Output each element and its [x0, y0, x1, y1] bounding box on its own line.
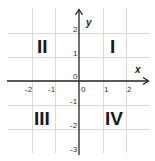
y-axis-label: y [85, 17, 92, 28]
y-tick-0: 0 [73, 72, 78, 81]
quadrant-label-1: I [110, 36, 115, 57]
x-tick-2: 2 [127, 85, 132, 94]
coordinate-plane: x y -2 -1 0 1 2 2 1 0 -1 -2 -3 I II III … [0, 0, 155, 161]
quadrant-label-4: IV [105, 108, 123, 129]
x-tick-0: 0 [81, 85, 86, 94]
x-tick-neg2: -2 [25, 85, 33, 94]
x-tick-neg1: -1 [48, 85, 56, 94]
y-tick-1: 1 [73, 49, 78, 58]
x-axis-label: x [134, 64, 141, 75]
x-tick-1: 1 [104, 85, 109, 94]
y-tick-neg1: -1 [70, 97, 78, 106]
y-tick-neg2: -2 [70, 121, 78, 130]
quadrant-label-3: III [34, 108, 50, 129]
y-tick-neg3: -3 [70, 145, 78, 154]
y-tick-2: 2 [73, 25, 78, 34]
axes [7, 10, 149, 156]
quadrant-label-2: II [37, 36, 48, 57]
